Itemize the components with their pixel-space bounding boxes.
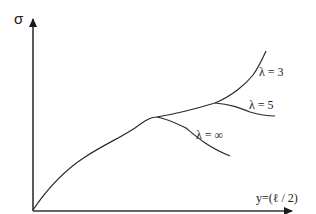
y-axis-label: σ <box>14 10 23 27</box>
label-lambda-3: λ = 3 <box>259 65 284 80</box>
curve-shared-3-5 <box>157 103 215 117</box>
label-lambda-inf: λ = ∞ <box>196 128 223 143</box>
x-axis-label: y=(ℓ / 2) <box>256 191 298 206</box>
label-lambda-5: λ = 5 <box>249 98 274 113</box>
curve-common <box>33 117 157 210</box>
